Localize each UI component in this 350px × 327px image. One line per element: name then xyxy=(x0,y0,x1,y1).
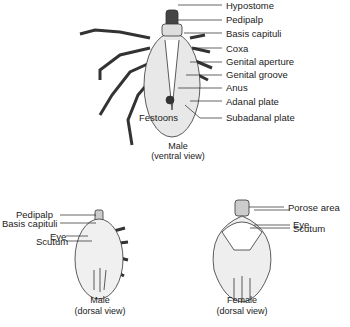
label-basis-capituli: Basis capituli xyxy=(226,28,281,39)
label-pedipalp: Pedipalp xyxy=(226,14,263,25)
label-basis-capituli-dorsal: Basis capituli xyxy=(2,218,57,229)
label-porose-area: Porose area xyxy=(288,202,340,213)
label-adanal-plate: Adanal plate xyxy=(226,96,279,107)
label-anus: Anus xyxy=(226,82,248,93)
label-coxa: Coxa xyxy=(226,43,248,54)
male-dorsal-body xyxy=(75,219,123,299)
caption-female-dorsal-view: (dorsal view) xyxy=(202,306,282,317)
label-subadanal-plate: Subadanal plate xyxy=(226,112,295,123)
tick-diagram-drawings xyxy=(0,0,350,327)
caption-male-dorsal-title: Male xyxy=(70,295,130,306)
caption-male-ventral-view: (ventral view) xyxy=(138,151,218,162)
label-festoons: Festoons xyxy=(139,112,178,123)
label-genital-aperture: Genital aperture xyxy=(226,56,294,67)
caption-female-dorsal-title: Female xyxy=(212,295,272,306)
label-genital-groove: Genital groove xyxy=(226,69,288,80)
label-scutum-female: Scutum xyxy=(293,223,325,234)
label-hypostome: Hypostome xyxy=(226,0,274,11)
label-scutum-male: Scutum xyxy=(36,236,68,247)
caption-male-dorsal-view: (dorsal view) xyxy=(60,306,140,317)
